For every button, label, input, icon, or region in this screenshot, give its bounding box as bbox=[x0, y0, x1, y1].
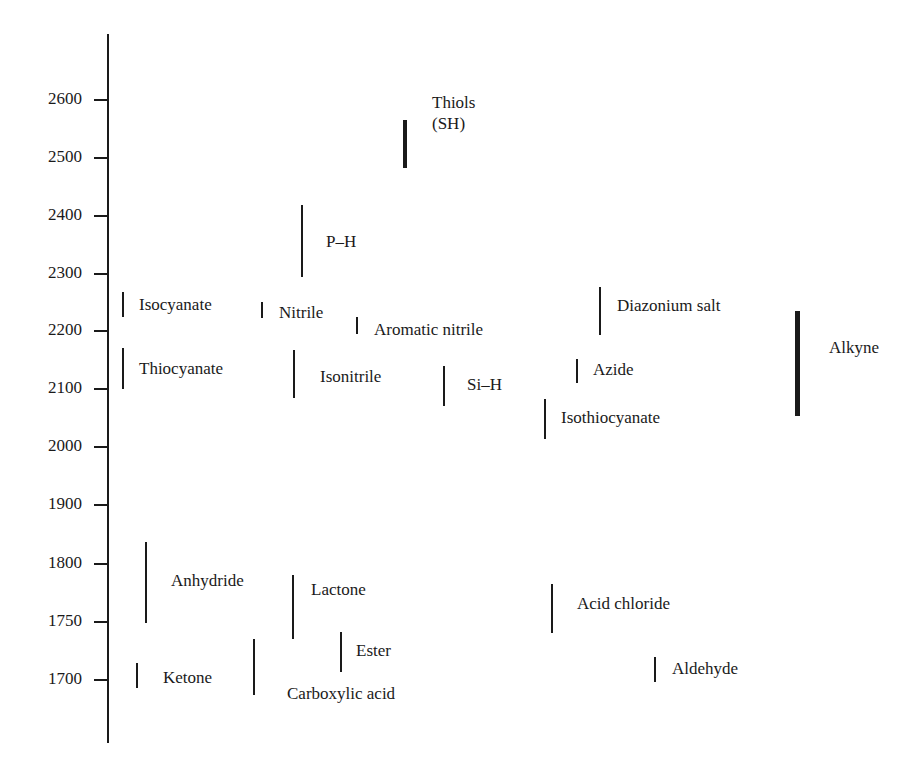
functional-group-label: Isocyanate bbox=[139, 294, 212, 315]
functional-group-label: Isonitrile bbox=[320, 366, 381, 387]
absorption-range-bar bbox=[292, 575, 295, 639]
functional-group-label: Lactone bbox=[311, 579, 366, 600]
functional-group-label: Ester bbox=[356, 640, 391, 661]
ir-absorption-chart: 2600250024002300220021002000190018001750… bbox=[0, 0, 922, 776]
absorption-range-bar bbox=[599, 287, 601, 335]
y-tick-label: 1900 bbox=[18, 495, 82, 513]
absorption-range-bar bbox=[356, 317, 358, 334]
functional-group-label: Thiocyanate bbox=[139, 358, 223, 379]
y-tick bbox=[94, 504, 108, 506]
y-tick bbox=[94, 563, 108, 565]
y-tick bbox=[94, 273, 108, 275]
absorption-range-bar bbox=[253, 639, 256, 695]
y-tick bbox=[94, 99, 108, 101]
absorption-range-bar bbox=[122, 348, 124, 389]
functional-group-label: Si–H bbox=[467, 374, 502, 395]
functional-group-label: Acid chloride bbox=[577, 593, 670, 614]
functional-group-label: Ketone bbox=[163, 667, 212, 688]
functional-group-label: Alkyne bbox=[829, 337, 879, 358]
absorption-range-bar bbox=[795, 311, 800, 416]
absorption-range-bar bbox=[443, 366, 445, 406]
functional-group-label: Isothiocyanate bbox=[561, 407, 660, 428]
functional-group-label: Aldehyde bbox=[672, 658, 738, 679]
y-tick-label: 2600 bbox=[18, 90, 82, 108]
absorption-range-bar bbox=[340, 632, 342, 672]
functional-group-label: P–H bbox=[326, 231, 356, 252]
y-tick-label: 2200 bbox=[18, 321, 82, 339]
absorption-range-bar bbox=[403, 120, 407, 168]
absorption-range-bar bbox=[576, 359, 578, 383]
y-tick-label: 1750 bbox=[18, 612, 82, 630]
absorption-range-bar bbox=[654, 657, 656, 682]
absorption-range-bar bbox=[551, 584, 554, 633]
y-tick-label: 2100 bbox=[18, 379, 82, 397]
absorption-range-bar bbox=[261, 302, 264, 318]
y-tick bbox=[94, 215, 108, 217]
y-tick bbox=[94, 446, 108, 448]
absorption-range-bar bbox=[301, 205, 303, 277]
y-tick-label: 2500 bbox=[18, 148, 82, 166]
y-tick bbox=[94, 679, 108, 681]
y-tick-label: 1700 bbox=[18, 670, 82, 688]
functional-group-label: Diazonium salt bbox=[617, 295, 720, 316]
y-tick-label: 1800 bbox=[18, 554, 82, 572]
absorption-range-bar bbox=[293, 350, 296, 398]
y-tick-label: 2400 bbox=[18, 206, 82, 224]
absorption-range-bar bbox=[145, 542, 147, 623]
absorption-range-bar bbox=[136, 663, 138, 688]
y-tick bbox=[94, 157, 108, 159]
functional-group-label: Carboxylic acid bbox=[287, 683, 395, 704]
functional-group-label: Thiols (SH) bbox=[432, 92, 475, 134]
y-tick bbox=[94, 330, 108, 332]
y-tick bbox=[94, 621, 108, 623]
absorption-range-bar bbox=[544, 399, 546, 439]
y-tick-label: 2000 bbox=[18, 437, 82, 455]
functional-group-label: Aromatic nitrile bbox=[374, 319, 483, 340]
functional-group-label: Nitrile bbox=[279, 302, 323, 323]
functional-group-label: Azide bbox=[593, 359, 634, 380]
y-tick bbox=[94, 388, 108, 390]
functional-group-label: Anhydride bbox=[171, 570, 244, 591]
y-tick-label: 2300 bbox=[18, 264, 82, 282]
absorption-range-bar bbox=[122, 292, 124, 317]
